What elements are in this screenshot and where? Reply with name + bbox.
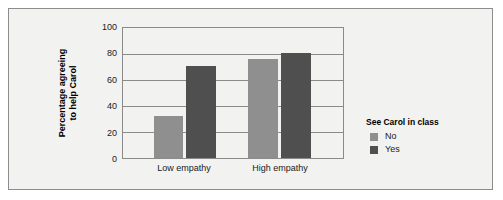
legend-item-yes: Yes bbox=[370, 145, 486, 154]
x-axis-label-low-empathy: Low empathy bbox=[157, 163, 211, 173]
bar-low-empathy-yes bbox=[186, 66, 216, 158]
y-tick-label-20: 20 bbox=[107, 128, 117, 137]
plot-area bbox=[122, 27, 344, 159]
legend-swatch-no bbox=[370, 133, 378, 141]
y-tick-label-100: 100 bbox=[102, 23, 117, 32]
y-axis-tick-labels: 100 80 60 40 20 0 bbox=[87, 27, 117, 159]
bar-low-empathy-no bbox=[154, 116, 184, 158]
bar-high-empathy-no bbox=[248, 59, 278, 158]
y-tick-label-40: 40 bbox=[107, 102, 117, 111]
bar-high-empathy-yes bbox=[281, 53, 311, 158]
y-axis-title: Percentage agreeing to help Carol bbox=[57, 0, 83, 27]
legend-title: See Carol in class bbox=[366, 117, 486, 127]
legend-label-yes: Yes bbox=[385, 145, 400, 154]
legend: See Carol in class No Yes bbox=[366, 117, 486, 158]
y-tick-label-60: 60 bbox=[107, 75, 117, 84]
x-axis-label-high-empathy: High empathy bbox=[252, 163, 308, 173]
y-tick-label-80: 80 bbox=[107, 49, 117, 58]
legend-label-no: No bbox=[385, 132, 397, 141]
y-axis-title-line-1: Percentage agreeing bbox=[57, 27, 68, 159]
y-tick-label-0: 0 bbox=[112, 155, 117, 164]
chart-figure: Percentage agreeing to help Carol 100 80… bbox=[8, 8, 493, 190]
y-axis-title-line-2: to help Carol bbox=[68, 27, 79, 159]
legend-swatch-yes bbox=[370, 146, 378, 154]
legend-item-no: No bbox=[370, 132, 486, 141]
